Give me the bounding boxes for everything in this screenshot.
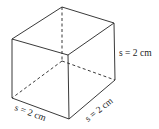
height-label: s = 2 cm bbox=[119, 48, 152, 58]
front-right-edge bbox=[68, 55, 69, 119]
hidden-back-bottom-edge bbox=[62, 61, 115, 80]
cube-diagram: s = 2 cm s = 2 cm s = 2 cm bbox=[0, 0, 159, 129]
back-right-edge bbox=[114, 23, 115, 80]
hidden-left-bottom-edge bbox=[12, 61, 62, 98]
depth-label: s = 2 cm bbox=[83, 95, 115, 123]
front-width-label: s = 2 cm bbox=[13, 102, 48, 123]
top-face bbox=[12, 7, 114, 55]
